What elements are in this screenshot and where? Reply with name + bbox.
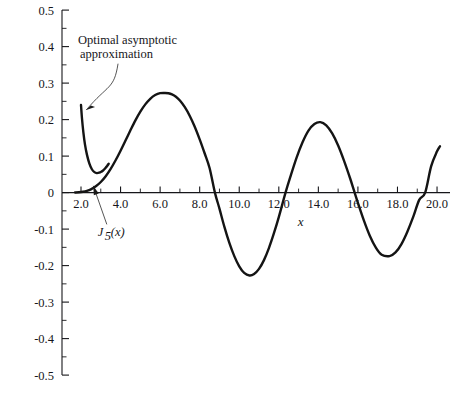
asymptotic-approximation-curve <box>81 105 109 173</box>
x-tick-label: 14.0 <box>307 197 329 211</box>
x-tick-label: 20.0 <box>426 197 448 211</box>
y-tick-label: 0.1 <box>38 150 54 164</box>
x-tick-label: 2.0 <box>73 197 89 211</box>
y-tick-label: -0.1 <box>34 223 54 237</box>
data-curves <box>75 93 440 276</box>
x-axis: 2.04.06.08.010.012.014.016.018.020.0 <box>62 187 450 211</box>
y-tick-label: 0.3 <box>38 77 54 91</box>
chart-plot-svg: 0.50.40.30.20.10-0.1-0.2-0.3-0.4-0.5 2.0… <box>0 0 466 398</box>
y-tick-label: -0.5 <box>34 369 54 383</box>
x-axis-title: x <box>297 214 304 229</box>
y-tick-label: -0.2 <box>34 259 54 273</box>
x-tick-label: 8.0 <box>192 197 208 211</box>
y-tick-label: 0.4 <box>38 40 54 54</box>
x-tick-label: 12.0 <box>268 197 290 211</box>
annotation-j5-label: J5(x) <box>98 225 125 243</box>
x-tick-label: 10.0 <box>228 197 250 211</box>
annotation-asymptotic-leader <box>86 64 118 110</box>
bessel-function-chart-figure: 0.50.40.30.20.10-0.1-0.2-0.3-0.4-0.5 2.0… <box>0 0 466 398</box>
x-tick-label: 18.0 <box>387 197 409 211</box>
y-tick-label: -0.3 <box>34 296 54 310</box>
j5-label-text: J <box>98 225 105 239</box>
annotation-asymptotic-line1: Optimal asymptotic <box>78 33 177 47</box>
y-tick-label: 0 <box>48 186 54 200</box>
x-tick-label: 6.0 <box>152 197 168 211</box>
bessel-j5-curve <box>75 93 440 276</box>
y-tick-label: 0.2 <box>38 113 54 127</box>
y-tick-label: -0.4 <box>34 332 55 346</box>
y-tick-label: 0.5 <box>38 4 54 18</box>
annotation-asymptotic-line2: approximation <box>80 47 154 61</box>
x-tick-label: 4.0 <box>113 197 129 211</box>
j5-label-argument: (x) <box>111 225 125 239</box>
